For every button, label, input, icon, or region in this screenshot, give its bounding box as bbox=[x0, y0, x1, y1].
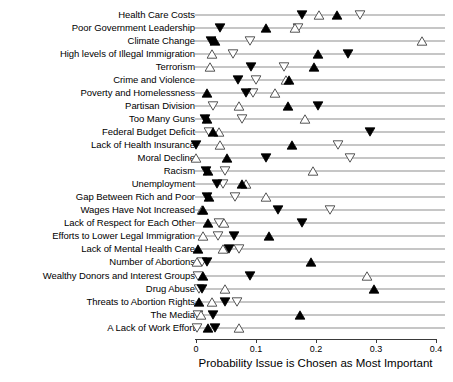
row-rule bbox=[195, 66, 445, 67]
chart-row: High levels of Illegal Immigration bbox=[0, 47, 453, 60]
category-label: Health Care Costs bbox=[118, 10, 195, 20]
chart-row: Health Care Costs bbox=[0, 8, 453, 21]
category-label: Climate Change bbox=[128, 36, 195, 46]
category-label: A Lack of Work Effort bbox=[107, 323, 195, 333]
category-label: Moral Decline bbox=[138, 153, 195, 163]
row-rule bbox=[195, 210, 445, 211]
open-up-triangle-marker bbox=[234, 319, 245, 337]
x-axis-tick bbox=[256, 339, 257, 343]
chart-row: Partisan Division bbox=[0, 99, 453, 112]
issue-probability-dot-chart: Health Care CostsPoor Government Leaders… bbox=[0, 0, 453, 382]
x-axis-tick-label: 0.4 bbox=[430, 344, 443, 354]
chart-row: Climate Change bbox=[0, 34, 453, 47]
row-rule bbox=[195, 171, 445, 172]
x-axis-tick-label: 0.3 bbox=[370, 344, 383, 354]
chart-row: Number of Abortions bbox=[0, 256, 453, 269]
category-label: Crime and Violence bbox=[113, 75, 195, 85]
chart-row: A Lack of Work Effort bbox=[0, 321, 453, 334]
category-label: Number of Abortions bbox=[109, 258, 195, 268]
category-label: Drug Abuse bbox=[146, 284, 195, 294]
row-rule bbox=[195, 40, 445, 41]
chart-row: Federal Budget Deficit bbox=[0, 125, 453, 138]
x-axis-tick bbox=[196, 339, 197, 343]
x-axis-tick bbox=[316, 339, 317, 343]
category-label: Too Many Guns bbox=[129, 114, 195, 124]
row-rule bbox=[195, 184, 445, 185]
category-label: Partisan Division bbox=[125, 101, 195, 111]
chart-row: Poor Government Leadership bbox=[0, 21, 453, 34]
chart-row: The Media bbox=[0, 308, 453, 321]
category-label: Terrorism bbox=[156, 62, 195, 72]
chart-row: Gap Between Rich and Poor bbox=[0, 191, 453, 204]
row-rule bbox=[195, 27, 445, 28]
chart-row: Unemployment bbox=[0, 178, 453, 191]
chart-row: Crime and Violence bbox=[0, 73, 453, 86]
filled-up-triangle-marker bbox=[203, 319, 214, 337]
chart-row: Too Many Guns bbox=[0, 112, 453, 125]
category-label: Threats to Abortion Rights bbox=[86, 297, 195, 307]
category-label: Poor Government Leadership bbox=[72, 23, 195, 33]
category-label: Lack of Health Insurance bbox=[91, 140, 195, 150]
category-label: The Media bbox=[151, 310, 195, 320]
category-label: High levels of Illegal Immigration bbox=[60, 49, 195, 59]
row-rule bbox=[195, 145, 445, 146]
row-rule bbox=[195, 92, 445, 93]
category-label: Gap Between Rich and Poor bbox=[76, 192, 195, 202]
chart-row: Lack of Respect for Each Other bbox=[0, 217, 453, 230]
category-label: Lack of Respect for Each Other bbox=[64, 219, 195, 229]
row-rule bbox=[195, 275, 445, 276]
chart-row: Poverty and Homelessness bbox=[0, 86, 453, 99]
row-rule bbox=[195, 288, 445, 289]
category-label: Unemployment bbox=[132, 179, 195, 189]
x-axis-tick bbox=[376, 339, 377, 343]
chart-row: Lack of Mental Health Care bbox=[0, 243, 453, 256]
row-rule bbox=[195, 327, 445, 328]
x-axis-tick-label: 0.1 bbox=[250, 344, 263, 354]
category-label: Efforts to Lower Legal Immigration bbox=[52, 232, 195, 242]
row-rule bbox=[195, 223, 445, 224]
row-rule bbox=[195, 118, 445, 119]
row-rule bbox=[195, 262, 445, 263]
open-down-triangle-marker bbox=[192, 319, 203, 337]
row-rule bbox=[195, 314, 445, 315]
x-axis-tick-label: 0.2 bbox=[310, 344, 323, 354]
category-label: Racism bbox=[164, 166, 195, 176]
category-label: Poverty and Homelessness bbox=[81, 88, 195, 98]
x-axis-tick-label: 0 bbox=[193, 344, 198, 354]
chart-row: Terrorism bbox=[0, 60, 453, 73]
chart-row: Threats to Abortion Rights bbox=[0, 295, 453, 308]
category-label: Federal Budget Deficit bbox=[102, 127, 195, 137]
row-rule bbox=[195, 131, 445, 132]
category-label: Wealthy Donors and Interest Groups bbox=[43, 271, 195, 281]
category-label: Wages Have Not Increased bbox=[80, 206, 195, 216]
x-axis-title: Probability Issue is Chosen as Most Impo… bbox=[195, 357, 436, 369]
x-axis-tick bbox=[436, 339, 437, 343]
category-label: Lack of Mental Health Care bbox=[81, 245, 195, 255]
